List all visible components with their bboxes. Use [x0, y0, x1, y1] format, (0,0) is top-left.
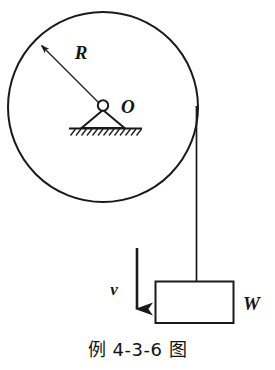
velocity-label: v: [110, 280, 118, 299]
suspended-block: [156, 282, 234, 324]
figure-caption: 例 4-3-6 图: [0, 335, 275, 361]
center-label: O: [121, 96, 135, 117]
pivot-support-triangle: [82, 110, 125, 128]
weight-label: W: [243, 293, 261, 314]
radius-label: R: [74, 42, 88, 63]
figure-root: R O v W 例 4-3-6 图: [0, 0, 275, 370]
pivot-hub: [98, 100, 108, 110]
pulley-block-diagram: R O v W: [0, 0, 275, 370]
ground-hatching: [71, 129, 142, 136]
radius-arrow: [42, 46, 104, 108]
